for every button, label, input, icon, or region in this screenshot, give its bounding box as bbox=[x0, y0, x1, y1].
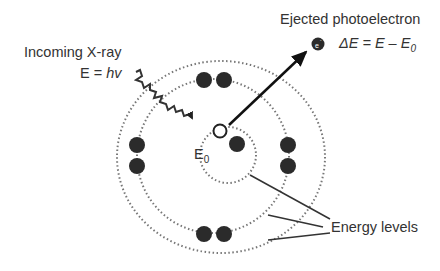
ejected-energy-sub: 0 bbox=[410, 43, 416, 54]
core-level-sub: 0 bbox=[204, 154, 210, 165]
incoming-xray-label: Incoming X-ray bbox=[24, 45, 122, 60]
svg-text:e: e bbox=[315, 42, 319, 49]
ejection-arrow bbox=[229, 52, 306, 125]
core-level-text: E bbox=[194, 146, 204, 162]
core-level-label: E0 bbox=[194, 147, 209, 165]
energy-prefix: E = bbox=[80, 65, 106, 81]
energy-var: hv bbox=[106, 65, 121, 81]
core-hole bbox=[214, 125, 227, 138]
ejected-electron: e - bbox=[312, 38, 325, 51]
ejected-energy-text: ΔE = E – E bbox=[339, 35, 410, 51]
xray-wave bbox=[136, 70, 192, 118]
ejected-energy-label: ΔE = E – E0 bbox=[339, 36, 416, 54]
ejected-photoelectron-label: Ejected photoelectron bbox=[280, 12, 420, 27]
energy-level-leaders bbox=[250, 175, 330, 240]
outer-energy-level bbox=[117, 61, 325, 253]
incoming-energy-label: E = hv bbox=[80, 66, 122, 81]
energy-levels-label: Energy levels bbox=[331, 220, 418, 235]
